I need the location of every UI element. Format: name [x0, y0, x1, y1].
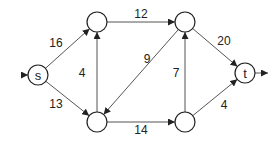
flow-network-diagram: st 16134129147204: [0, 0, 280, 141]
edge-d-t: [193, 79, 238, 115]
node-label: t: [243, 66, 247, 81]
edge-capacity-label: 13: [49, 97, 63, 111]
node-b: [87, 112, 107, 132]
edge-capacity-label: 4: [79, 66, 86, 80]
edge-capacity-label: 16: [49, 36, 63, 50]
edge-capacity-label: 4: [221, 98, 228, 112]
edge-capacity-label: 20: [217, 34, 231, 48]
node-a: [87, 12, 107, 32]
edge-c-b: [104, 30, 179, 115]
edge-capacity-label: 7: [173, 66, 180, 80]
edge-capacity-label: 9: [144, 52, 151, 66]
node-label: s: [35, 68, 42, 83]
edge-capacity-label: 14: [134, 123, 148, 137]
node-d: [175, 112, 195, 132]
node-c: [175, 12, 195, 32]
edge-capacity-label: 12: [134, 7, 148, 21]
